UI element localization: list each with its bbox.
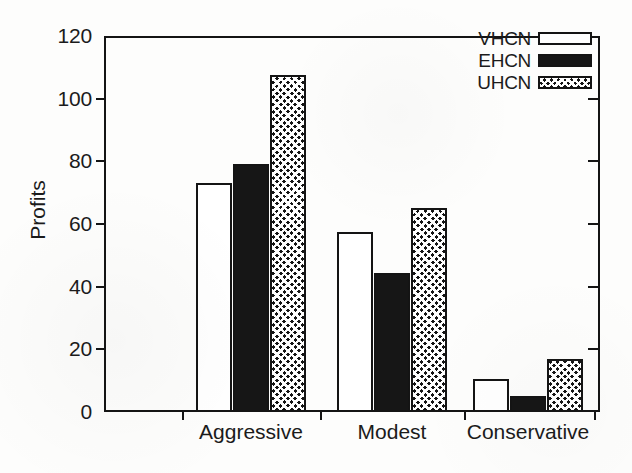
y-axis-tick-label: 100 [32, 88, 92, 109]
y-axis-tick-label: 80 [32, 150, 92, 171]
legend-item-label: EHCN [478, 51, 531, 70]
y-axis-tick-label: 60 [32, 213, 92, 234]
legend-item-vhcn: VHCN [474, 28, 592, 49]
x-axis-tick [464, 410, 466, 420]
bar-aggressive-uhcn [270, 75, 306, 412]
legend-item-ehcn: EHCN [474, 50, 592, 71]
bar-conservative-ehcn [510, 396, 546, 412]
chart-legend: VHCNEHCNUHCN [474, 28, 592, 94]
legend-item-label: UHCN [477, 73, 531, 92]
bar-modest-ehcn [374, 273, 410, 412]
x-axis-category-label: Conservative [467, 420, 590, 444]
bar-aggressive-ehcn [233, 164, 269, 412]
x-axis-tick [320, 410, 322, 420]
bar-conservative-uhcn [547, 359, 583, 412]
bar-conservative-vhcn [473, 379, 509, 412]
legend-swatch-cross [538, 76, 592, 89]
legend-item-uhcn: UHCN [474, 72, 592, 93]
y-axis-tick-label: 0 [32, 401, 92, 422]
bar-chart-figure: Profits 020406080100120 AggressiveModest… [0, 0, 632, 473]
x-axis-tick [182, 410, 184, 420]
legend-swatch-solid [538, 54, 592, 67]
legend-item-label: VHCN [478, 29, 531, 48]
legend-swatch-empty [538, 32, 592, 45]
x-axis-tick [594, 410, 596, 420]
bar-modest-vhcn [337, 232, 373, 412]
y-axis-tick-label: 120 [32, 25, 92, 46]
bar-modest-uhcn [411, 208, 447, 412]
y-axis-tick-label: 40 [32, 276, 92, 297]
y-axis-tick-label: 20 [32, 338, 92, 359]
x-axis-category-label: Modest [358, 420, 427, 444]
x-axis-category-label: Aggressive [199, 420, 303, 444]
bar-aggressive-vhcn [196, 183, 232, 412]
